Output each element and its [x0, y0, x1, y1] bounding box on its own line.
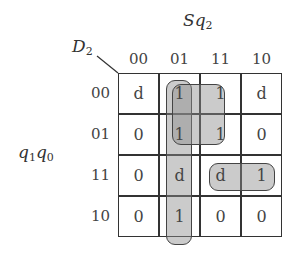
row-header-11: 11: [80, 166, 110, 184]
cell-r10-c11: 0: [200, 196, 241, 237]
cell-r00-c00: d: [118, 73, 159, 114]
column-header-10: 10: [241, 50, 282, 68]
cell-r10-c00: 0: [118, 196, 159, 237]
cell-r00-c10: d: [241, 73, 282, 114]
column-header-01: 01: [159, 50, 200, 68]
cell-r01-c00: 0: [118, 114, 159, 155]
cell-r01-c10: 0: [241, 114, 282, 155]
cell-r10-c10: 0: [241, 196, 282, 237]
column-header-00: 00: [118, 50, 159, 68]
row-header-10: 10: [80, 207, 110, 225]
cell-r11-c00: 0: [118, 155, 159, 196]
row-header-01: 01: [80, 125, 110, 143]
row-header-00: 00: [80, 84, 110, 102]
column-header-11: 11: [200, 50, 241, 68]
